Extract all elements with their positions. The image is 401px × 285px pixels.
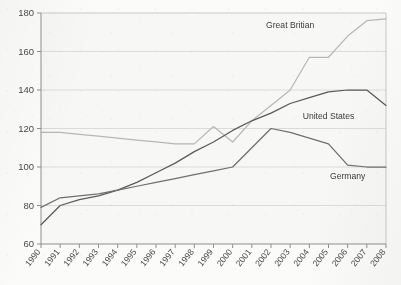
x-tick-label-2006: 2006 [330, 247, 350, 268]
x-tick-label-2007: 2007 [349, 247, 369, 268]
y-tick-label-140: 140 [18, 84, 34, 95]
y-tick-label-180: 180 [18, 7, 34, 18]
x-tick-label-2000: 2000 [215, 247, 235, 268]
x-tick-label-1993: 1993 [80, 247, 100, 268]
x-tick-label-2001: 2001 [234, 247, 254, 268]
y-tick-label-120: 120 [18, 123, 34, 134]
x-tick-label-1998: 1998 [176, 247, 196, 268]
x-tick-label-1990: 1990 [23, 247, 43, 268]
x-tick-label-2002: 2002 [253, 247, 273, 268]
series-label-united-states: United States [303, 111, 355, 121]
x-tick-label-2008: 2008 [368, 247, 388, 268]
x-tick-label-2005: 2005 [310, 247, 330, 268]
x-tick-label-1991: 1991 [42, 247, 62, 268]
series-label-great-britian: Great Britian [266, 20, 314, 30]
x-tick-label-2003: 2003 [272, 247, 292, 268]
y-tick-label-100: 100 [18, 161, 34, 172]
series-label-germany: Germany [330, 171, 366, 181]
y-tick-label-60: 60 [23, 238, 34, 249]
x-tick-label-1995: 1995 [119, 247, 139, 268]
x-tick-label-1999: 1999 [195, 247, 215, 268]
x-tick-label-2004: 2004 [291, 247, 311, 268]
y-tick-label-160: 160 [18, 46, 34, 57]
line-chart: 6080100120140160180199019911992199319941… [0, 0, 401, 285]
x-tick-label-1994: 1994 [100, 247, 120, 268]
chart-svg: 6080100120140160180199019911992199319941… [0, 0, 401, 285]
x-tick-label-1996: 1996 [138, 247, 158, 268]
x-tick-label-1992: 1992 [61, 247, 81, 268]
y-tick-label-80: 80 [23, 200, 34, 211]
x-tick-label-1997: 1997 [157, 247, 177, 268]
